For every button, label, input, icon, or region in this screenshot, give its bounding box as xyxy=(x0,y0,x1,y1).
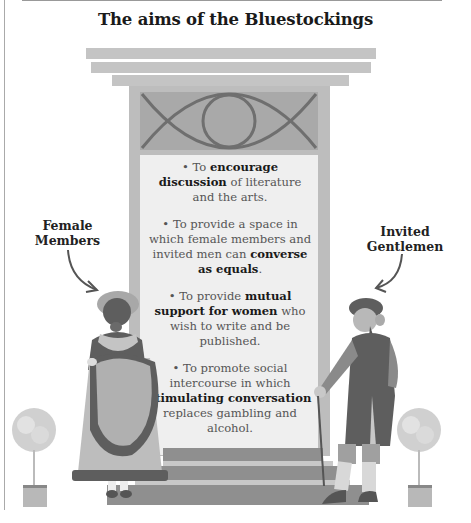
lintel-bar-1 xyxy=(86,48,376,59)
fanlight xyxy=(140,92,318,150)
female-figure-icon xyxy=(70,290,170,500)
aim-item: • To promote social intercourse in which… xyxy=(148,361,312,436)
diagram-title: The aims of the Bluestockings xyxy=(0,10,471,29)
label-line: Female xyxy=(30,218,105,233)
step-top xyxy=(163,448,323,461)
lintel-bar-2 xyxy=(91,62,371,73)
label-invited-gentlemen: Invited Gentlemen xyxy=(360,224,450,254)
lintel-bar-3 xyxy=(112,75,349,86)
aim-item: • To provide a space in which female mem… xyxy=(148,217,312,277)
label-line: Invited xyxy=(360,224,450,239)
aim-item: • To encourage discussion of literature … xyxy=(148,160,312,205)
potted-tree-left-icon xyxy=(10,405,60,510)
aims-list: • To encourage discussion of literature … xyxy=(148,160,312,448)
label-female-members: Female Members xyxy=(30,218,105,248)
label-line: Gentlemen xyxy=(360,239,450,254)
left-border xyxy=(4,0,5,510)
top-border xyxy=(22,0,442,1)
fanlight-ornament-icon xyxy=(140,92,318,150)
male-figure-icon xyxy=(300,296,410,511)
aim-item: • To provide mutual support for women wh… xyxy=(148,289,312,349)
potted-tree-right-icon xyxy=(395,405,445,510)
label-line: Members xyxy=(30,233,105,248)
